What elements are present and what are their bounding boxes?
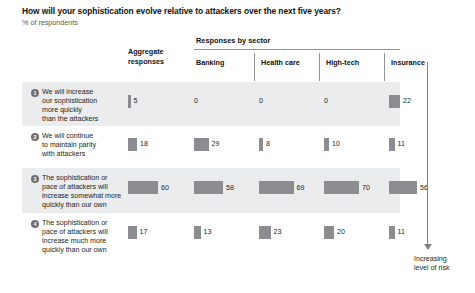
- value-label: 23: [274, 228, 282, 236]
- value-label: 8: [266, 140, 270, 148]
- value-bar: [128, 181, 158, 194]
- row-number-badge: 1: [31, 89, 39, 97]
- risk-annotation-label: Increasing level of risk: [414, 255, 472, 274]
- column-divider: [384, 53, 385, 82]
- down-arrow-icon-head: [424, 244, 432, 250]
- down-arrow-icon-shaft: [427, 62, 428, 246]
- row-number-badge: 2: [31, 133, 39, 141]
- row-label: 1We will increaseour sophisticationmore …: [31, 88, 127, 124]
- value-label: 11: [398, 140, 405, 148]
- value-label: 10: [332, 140, 340, 148]
- column-header-banking: Banking: [196, 58, 224, 67]
- value-bar: [194, 181, 223, 194]
- value-bar: [194, 226, 201, 239]
- row-label: 3The sophistication orpace of attackers …: [31, 174, 127, 210]
- column-divider: [319, 53, 320, 82]
- value-bar: [259, 181, 294, 194]
- row-label: 2We will continueto maintain paritywith …: [31, 132, 127, 159]
- value-bar: [259, 138, 263, 151]
- sector-group-label: Responses by sector: [196, 36, 270, 45]
- value-label: 17: [140, 228, 148, 236]
- value-label: 11: [398, 228, 405, 236]
- column-header-aggregate: Aggregate responses: [128, 47, 188, 66]
- value-label: 70: [362, 184, 370, 192]
- value-bar: [128, 226, 137, 239]
- value-bar: [324, 226, 334, 239]
- column-header-insurance: Insurance: [391, 58, 425, 67]
- value-label: 22: [403, 97, 411, 105]
- value-label: 60: [161, 184, 169, 192]
- table-row: 4The sophistication orpace of attackers …: [22, 213, 400, 257]
- value-label: 29: [212, 140, 220, 148]
- value-label: 0: [324, 97, 328, 105]
- value-label: 18: [140, 140, 148, 148]
- row-label-text: We will increaseour sophisticationmore q…: [42, 88, 127, 124]
- risk-label-line1: Increasing: [414, 255, 447, 263]
- value-bar: [194, 138, 209, 151]
- table-header: Aggregate responses Responses by sector …: [22, 36, 400, 82]
- row-label-text: We will continueto maintain paritywith a…: [42, 132, 127, 159]
- value-bar: [389, 138, 395, 151]
- column-header-aggregate-line1: Aggregate: [128, 47, 164, 56]
- row-label-text: The sophistication orpace of attackers w…: [42, 174, 127, 210]
- chart-subtitle: % of respondents: [22, 18, 422, 28]
- response-table: Aggregate responses Responses by sector …: [22, 36, 400, 251]
- column-header-aggregate-line2: responses: [128, 57, 188, 67]
- value-label: 5: [134, 97, 138, 105]
- table-body: 1We will increaseour sophisticationmore …: [22, 82, 400, 257]
- table-row: 1We will increaseour sophisticationmore …: [22, 82, 400, 126]
- row-label: 4The sophistication orpace of attackers …: [31, 219, 127, 255]
- value-label: 69: [297, 184, 305, 192]
- value-label: 20: [337, 228, 345, 236]
- sector-group-rule: [194, 49, 400, 50]
- value-label: 0: [194, 97, 198, 105]
- value-label: 0: [259, 97, 263, 105]
- value-bar: [259, 226, 271, 239]
- value-label: 13: [204, 228, 212, 236]
- value-bar: [128, 138, 137, 151]
- value-bar: [389, 226, 395, 239]
- risk-label-line2: level of risk: [414, 264, 449, 272]
- value-bar: [324, 138, 329, 151]
- value-bar: [128, 95, 131, 108]
- column-header-health-care: Health care: [261, 58, 300, 67]
- value-bar: [389, 181, 417, 194]
- row-label-text: The sophistication orpace of attackers w…: [42, 219, 127, 255]
- title-block: How will your sophistication evolve rela…: [22, 6, 422, 28]
- sector-column-group: Responses by sector BankingHealth careHi…: [194, 36, 400, 82]
- column-header-high-tech: High-tech: [326, 58, 359, 67]
- row-number-badge: 3: [31, 175, 39, 183]
- value-bar: [324, 181, 359, 194]
- column-divider: [254, 53, 255, 82]
- table-row: 2We will continueto maintain paritywith …: [22, 126, 400, 168]
- page-title: How will your sophistication evolve rela…: [22, 6, 422, 17]
- value-bar: [389, 95, 400, 108]
- row-number-badge: 4: [31, 220, 39, 228]
- table-row: 3The sophistication orpace of attackers …: [22, 168, 400, 213]
- value-label: 58: [226, 184, 234, 192]
